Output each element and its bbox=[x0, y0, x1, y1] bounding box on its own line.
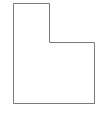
l-shape-outline bbox=[14, 4, 95, 104]
diagram-canvas bbox=[0, 0, 104, 113]
